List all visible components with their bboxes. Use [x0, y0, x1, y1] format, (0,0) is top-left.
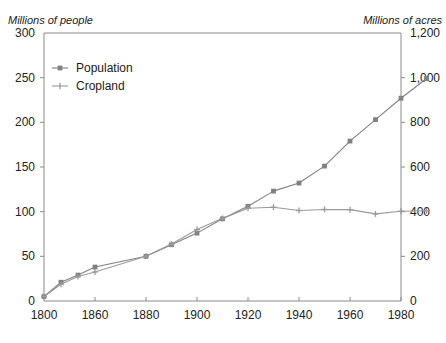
data-point-marker	[93, 265, 98, 270]
y-axis-right-ticks: 02004006008001,0001,200	[401, 26, 440, 308]
data-point-marker	[348, 139, 353, 144]
chart-container: Millions of people Millions of acres 050…	[0, 0, 446, 343]
chart-legend: PopulationCropland	[52, 61, 133, 93]
data-point-marker	[322, 164, 327, 169]
legend-label: Cropland	[76, 79, 125, 93]
series-population	[42, 76, 429, 299]
x-axis-tick-label: 1920	[235, 308, 262, 322]
data-point-marker	[373, 117, 378, 122]
data-point-marker	[271, 189, 276, 194]
data-point-marker	[92, 269, 98, 275]
data-point-marker	[271, 204, 277, 210]
x-axis-tick-label: 1940	[286, 308, 313, 322]
y-axis-left-ticks: 050100150200250300	[15, 26, 44, 308]
data-point-marker	[347, 207, 353, 213]
legend-item-cropland: Cropland	[52, 79, 125, 93]
y-axis-right-tick-label: 600	[410, 160, 430, 174]
x-axis-tick-label: 1900	[184, 308, 211, 322]
data-point-marker	[398, 208, 404, 214]
y-axis-right-tick-label: 400	[410, 205, 430, 219]
y-axis-left-tick-label: 200	[15, 115, 35, 129]
y-axis-right-tick-label: 0	[410, 294, 417, 308]
y-axis-left-tick-label: 250	[15, 71, 35, 85]
y-axis-left-tick-label: 100	[15, 205, 35, 219]
data-point-marker	[296, 208, 302, 214]
x-axis-tick-label: 1980	[388, 308, 415, 322]
data-series-layer	[41, 76, 430, 299]
x-axis-tick-label: 1880	[133, 308, 160, 322]
x-axis-tick-label: 1960	[337, 308, 364, 322]
data-point-marker	[373, 211, 379, 217]
y-axis-left-tick-label: 300	[15, 26, 35, 40]
data-point-marker	[322, 206, 328, 212]
legend-item-population: Population	[52, 61, 133, 75]
line-chart-plot: 050100150200250300 02004006008001,0001,2…	[0, 0, 446, 343]
y-axis-right-tick-label: 1,200	[410, 26, 440, 40]
x-axis-tick-label: 1800	[31, 308, 58, 322]
x-axis-tick-label: 1860	[82, 308, 109, 322]
data-point-marker	[424, 76, 429, 81]
y-axis-left-tick-label: 0	[28, 294, 35, 308]
y-axis-right-tick-label: 800	[410, 115, 430, 129]
y-axis-left-tick-label: 50	[22, 249, 36, 263]
series-cropland	[41, 204, 430, 299]
data-point-marker	[297, 181, 302, 186]
y-axis-right-tick-label: 200	[410, 249, 430, 263]
y-axis-left-tick-label: 150	[15, 160, 35, 174]
legend-label: Population	[76, 61, 133, 75]
data-point-marker	[399, 96, 404, 101]
